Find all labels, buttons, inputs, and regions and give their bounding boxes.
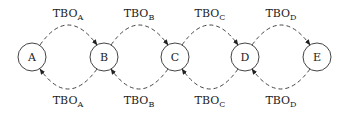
edge-bottom-b-a bbox=[40, 69, 97, 89]
edge-top-b-c bbox=[111, 25, 168, 45]
edge-top-a-b bbox=[40, 25, 97, 45]
edge-label-bottom-d: TBOD bbox=[265, 94, 296, 109]
node-b: B bbox=[90, 43, 118, 71]
edge-top-c-d bbox=[182, 25, 238, 45]
edge-label-bottom-a: TBOA bbox=[53, 94, 84, 109]
svg-text:C: C bbox=[171, 51, 179, 64]
edge-label-top-c: TBOC bbox=[195, 7, 226, 22]
svg-text:B: B bbox=[100, 51, 108, 64]
edge-label-top-d: TBOD bbox=[265, 7, 296, 22]
edge-bottom-c-b bbox=[111, 69, 168, 89]
edge-bottom-d-c bbox=[182, 69, 238, 89]
node-d: D bbox=[231, 43, 259, 71]
edge-label-bottom-c: TBOC bbox=[195, 94, 226, 109]
svg-text:D: D bbox=[241, 51, 250, 64]
node-c: C bbox=[161, 43, 189, 71]
node-a: A bbox=[18, 43, 46, 71]
svg-text:A: A bbox=[27, 51, 37, 64]
node-e: E bbox=[303, 43, 331, 71]
svg-text:E: E bbox=[313, 51, 321, 64]
edge-label-top-b: TBOB bbox=[124, 7, 155, 22]
edge-bottom-e-d bbox=[252, 69, 310, 89]
edge-label-bottom-b: TBOB bbox=[124, 94, 155, 109]
state-diagram: A B C D E TBOA TBOB TBOC TBOD TBOA TBOB … bbox=[0, 0, 353, 113]
edge-label-top-a: TBOA bbox=[53, 7, 84, 22]
edge-top-d-e bbox=[252, 25, 310, 45]
